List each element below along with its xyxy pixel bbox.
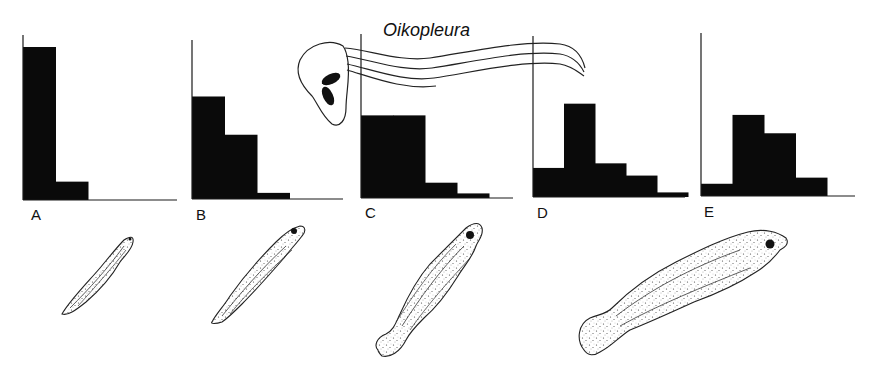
panel-label-c: C [365, 204, 376, 221]
bar [192, 96, 225, 199]
bar [657, 192, 689, 197]
histogram-e [701, 33, 855, 196]
oikopleura-tail [345, 43, 585, 68]
panel-label-d: D [537, 204, 548, 221]
bar [764, 133, 796, 196]
histogram-a [23, 35, 177, 200]
oikopleura-illustration [298, 42, 585, 125]
fish-larva-b [212, 226, 305, 324]
panel-label-b: B [196, 206, 206, 223]
bar [425, 183, 458, 198]
bar [361, 115, 394, 198]
bar [257, 193, 290, 199]
bar [393, 115, 426, 198]
bar [457, 193, 490, 198]
fish-larva-a [62, 237, 133, 314]
panel-label-a: A [31, 206, 41, 223]
histogram-d [533, 36, 689, 197]
bar [533, 168, 565, 197]
histogram-panels [0, 0, 878, 372]
bar [23, 47, 56, 200]
bar [56, 182, 89, 200]
bar [564, 104, 596, 197]
figure-title: Oikopleura [383, 20, 470, 41]
bar [626, 176, 658, 197]
panel-label-e: E [704, 203, 714, 220]
fish-larva-d [579, 230, 787, 354]
bar [701, 184, 733, 196]
bar [733, 115, 765, 196]
figure: Oikopleura A B C D E [0, 0, 878, 372]
bar [595, 163, 627, 197]
bar [225, 135, 258, 199]
fish-larva-c [376, 224, 482, 357]
bar [796, 178, 828, 196]
